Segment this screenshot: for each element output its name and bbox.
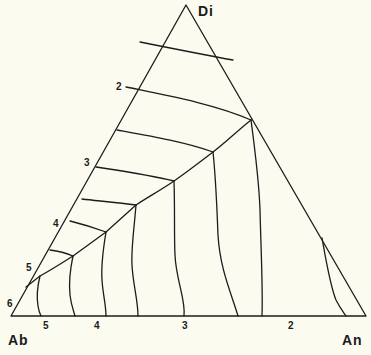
isotherm-di-7 — [50, 250, 73, 256]
vertex-label-an: An — [342, 333, 363, 347]
left-edge-label-3: 3 — [84, 158, 90, 168]
isotherm-di-6 — [70, 221, 106, 232]
isotherm-di-2 — [126, 87, 251, 120]
bottom-edge-label-4: 4 — [94, 321, 100, 331]
left-edge-label-2: 2 — [116, 82, 122, 92]
isotherm-pl-1 — [251, 120, 262, 316]
isotherm-pl-3 — [174, 181, 184, 316]
bottom-edge-label-5: 5 — [43, 321, 49, 331]
diagram-canvas — [0, 0, 371, 355]
bottom-edge-label-3: 3 — [182, 321, 188, 331]
isotherm-di-4 — [96, 167, 174, 181]
ternary-diagram: Di Ab An 2 3 4 5 6 5 4 3 2 — [0, 0, 371, 355]
left-edge-label-4: 4 — [53, 219, 59, 229]
bottom-edge-label-2: 2 — [288, 321, 294, 331]
vertex-label-di: Di — [198, 4, 214, 18]
left-edge-label-5: 5 — [26, 263, 32, 273]
isotherm-pl-6 — [70, 256, 75, 316]
isotherm-di-5 — [82, 199, 136, 205]
isotherm-pl-5 — [102, 232, 106, 316]
isotherm-di-1 — [140, 42, 233, 60]
isotherm-pl-4 — [132, 205, 138, 316]
isotherm-pl-7 — [37, 276, 41, 316]
isotherm-di-3 — [117, 130, 213, 152]
isotherm-pl-8 — [322, 238, 346, 316]
vertex-label-ab: Ab — [8, 333, 29, 347]
left-edge-label-6: 6 — [7, 299, 13, 309]
isotherm-pl-2 — [213, 152, 238, 316]
